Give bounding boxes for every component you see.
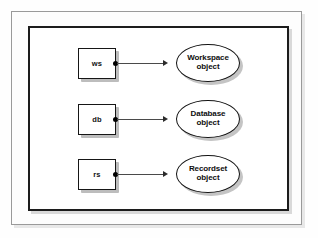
variable-box-rs[interactable]: rs — [78, 159, 116, 190]
variable-box-label: rs — [93, 170, 101, 179]
arrow-line — [117, 119, 163, 120]
object-suffix-label: object — [197, 174, 220, 183]
variable-box-label: ws — [92, 59, 102, 68]
diagram-canvas: ws Workspace object db Database object r… — [0, 0, 318, 238]
arrow-head-icon — [163, 171, 168, 177]
object-suffix-label: object — [197, 63, 220, 72]
object-ellipse-workspace[interactable]: Workspace object — [176, 44, 240, 82]
variable-box-label: db — [92, 115, 102, 124]
variable-box-db[interactable]: db — [78, 104, 116, 135]
arrow-line — [117, 63, 163, 64]
object-suffix-label: object — [197, 119, 220, 128]
arrow-line — [117, 174, 163, 175]
variable-box-ws[interactable]: ws — [78, 48, 116, 79]
object-ellipse-recordset[interactable]: Recordset object — [176, 155, 240, 193]
arrow-head-icon — [163, 116, 168, 122]
object-ellipse-database[interactable]: Database object — [176, 100, 240, 138]
arrow-head-icon — [163, 60, 168, 66]
